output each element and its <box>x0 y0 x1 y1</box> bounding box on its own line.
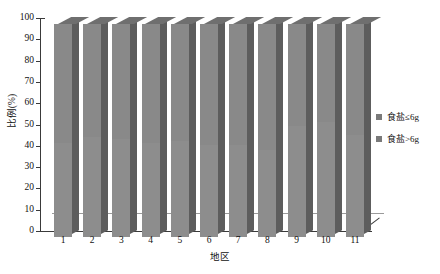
bar-column[interactable] <box>258 24 276 237</box>
y-axis-tick-label: 10 <box>0 204 34 214</box>
legend-label: 食盐≤6g <box>387 110 419 123</box>
x-axis-tick-label: 2 <box>79 235 105 245</box>
bar-segment-low-salt <box>229 145 247 237</box>
bar-top-face <box>58 17 89 24</box>
y-axis-tick-label: 0 <box>0 225 34 235</box>
bar-top-face <box>262 17 293 24</box>
x-axis-tick-label: 8 <box>254 235 280 245</box>
bar-top-face <box>233 17 264 24</box>
y-axis-tick-label: 20 <box>0 182 34 192</box>
bar-column[interactable] <box>317 24 335 237</box>
y-axis-tick-label: 60 <box>0 97 34 107</box>
x-axis-tick-label: 6 <box>196 235 222 245</box>
legend-label: 食盐>6g <box>387 132 419 145</box>
bar-column[interactable] <box>288 24 306 237</box>
x-axis-title: 地区 <box>0 249 440 263</box>
bar-segment-low-salt <box>112 139 130 237</box>
bar-front-face <box>229 24 247 237</box>
x-axis-tick-label: 5 <box>167 235 193 245</box>
chart-container: 比例(%) 0102030405060708090100 12345678910… <box>0 0 440 274</box>
bar-front-face <box>317 24 335 237</box>
bar-side-face <box>306 17 313 234</box>
bar-front-face <box>171 24 189 237</box>
bar-segment-high-salt <box>229 24 247 145</box>
bar-side-face <box>160 17 167 234</box>
bar-top-face <box>291 17 322 24</box>
bar-side-face <box>189 17 196 234</box>
bar-segment-high-salt <box>317 24 335 122</box>
x-axis-tick-label: 1 <box>50 235 76 245</box>
bar-front-face <box>346 24 364 237</box>
bar-side-face <box>276 17 283 234</box>
x-axis-tick-label: 9 <box>284 235 310 245</box>
bar-segment-high-salt <box>200 24 218 145</box>
x-axis-tick-label: 4 <box>138 235 164 245</box>
legend-item[interactable]: 食盐>6g <box>376 132 440 145</box>
bar-column[interactable] <box>346 24 364 237</box>
x-axis-tick-label: 3 <box>108 235 134 245</box>
bar-segment-high-salt <box>112 24 130 139</box>
bar-column[interactable] <box>229 24 247 237</box>
bar-segment-low-salt <box>142 143 160 237</box>
y-axis-tick-label: 80 <box>0 55 34 65</box>
bar-front-face <box>258 24 276 237</box>
bar-top-face <box>350 17 381 24</box>
bar-segment-high-salt <box>346 24 364 135</box>
y-axis-tick-label: 100 <box>0 12 34 22</box>
bars-area <box>40 18 372 234</box>
bar-side-face <box>101 17 108 234</box>
x-axis-tick-label: 11 <box>342 235 368 245</box>
legend-swatch-icon <box>376 114 382 120</box>
bar-top-face <box>174 17 205 24</box>
bar-front-face <box>200 24 218 237</box>
bar-segment-high-salt <box>171 24 189 141</box>
bar-segment-low-salt <box>171 141 189 237</box>
bar-top-face <box>204 17 235 24</box>
y-axis-tick-label: 50 <box>0 119 34 129</box>
bar-front-face <box>112 24 130 237</box>
legend-item[interactable]: 食盐≤6g <box>376 110 440 123</box>
y-axis-tick-label: 90 <box>0 33 34 43</box>
bar-column[interactable] <box>200 24 218 237</box>
bar-top-face <box>116 17 147 24</box>
bar-front-face <box>54 24 72 237</box>
bar-side-face <box>72 17 79 234</box>
bar-column[interactable] <box>171 24 189 237</box>
y-axis-tick-label: 30 <box>0 161 34 171</box>
x-axis-tick-label: 10 <box>313 235 339 245</box>
bar-segment-high-salt <box>258 24 276 150</box>
bar-segment-high-salt <box>288 24 306 126</box>
bar-column[interactable] <box>142 24 160 237</box>
legend-swatch-icon <box>376 136 382 142</box>
bar-segment-high-salt <box>54 24 72 143</box>
bar-column[interactable] <box>112 24 130 237</box>
y-axis-tick-label: 40 <box>0 140 34 150</box>
bar-segment-low-salt <box>346 135 364 237</box>
x-axis-tick-label: 7 <box>225 235 251 245</box>
bar-segment-high-salt <box>83 24 101 137</box>
bar-segment-low-salt <box>200 145 218 237</box>
bar-segment-low-salt <box>54 143 72 237</box>
bar-segment-low-salt <box>317 122 335 237</box>
bar-column[interactable] <box>54 24 72 237</box>
bar-side-face <box>335 17 342 234</box>
bar-side-face <box>364 17 371 234</box>
y-axis-tick-label: 70 <box>0 76 34 86</box>
bar-column[interactable] <box>83 24 101 237</box>
bar-front-face <box>142 24 160 237</box>
bar-top-face <box>87 17 118 24</box>
bar-side-face <box>247 17 254 234</box>
bar-top-face <box>145 17 176 24</box>
bar-segment-high-salt <box>142 24 160 143</box>
bar-side-face <box>218 17 225 234</box>
bar-segment-low-salt <box>258 150 276 237</box>
legend: 食盐≤6g 食盐>6g <box>376 110 440 154</box>
bar-side-face <box>130 17 137 234</box>
bar-segment-low-salt <box>288 126 306 237</box>
bar-top-face <box>320 17 351 24</box>
bar-front-face <box>288 24 306 237</box>
bar-front-face <box>83 24 101 237</box>
bar-segment-low-salt <box>83 137 101 237</box>
